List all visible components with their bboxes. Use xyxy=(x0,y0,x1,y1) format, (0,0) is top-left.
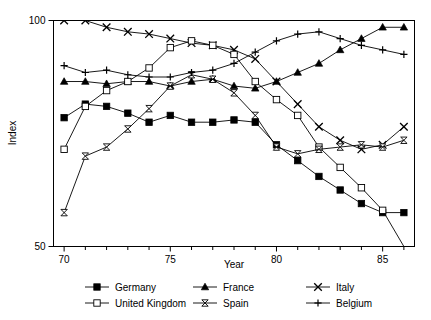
open-square-marker xyxy=(273,96,279,102)
legend-item-united-kingdom[interactable]: United Kingdom xyxy=(85,298,186,309)
plus-marker xyxy=(209,67,216,74)
legend-item-germany[interactable]: Germany xyxy=(85,282,156,293)
x-marker xyxy=(294,100,302,108)
filled-square-marker xyxy=(231,117,237,123)
open-square-marker xyxy=(252,78,258,84)
open-square-marker xyxy=(94,300,100,306)
x-tick-label: 70 xyxy=(59,254,71,265)
filled-triangle-marker xyxy=(82,78,89,85)
open-square-marker xyxy=(167,44,173,50)
filled-triangle-marker xyxy=(336,46,343,53)
open-square-marker xyxy=(146,65,152,71)
plus-marker xyxy=(294,30,301,37)
y-tick-label: 100 xyxy=(29,15,46,26)
filled-square-marker xyxy=(316,173,322,179)
filled-square-marker xyxy=(358,200,364,206)
filled-square-marker xyxy=(125,110,131,116)
filled-triangle-marker xyxy=(379,23,386,30)
filled-square-marker xyxy=(252,119,258,125)
legend-label: Spain xyxy=(223,298,249,309)
bowtie-marker xyxy=(125,126,131,132)
plus-marker xyxy=(167,73,174,80)
filled-square-marker xyxy=(210,119,216,125)
series-germany xyxy=(61,101,407,216)
x-marker xyxy=(251,55,259,63)
plus-marker xyxy=(103,67,110,74)
filled-triangle-marker xyxy=(201,283,208,290)
y-tick-label: 50 xyxy=(34,241,46,252)
plus-marker xyxy=(252,49,259,56)
bowtie-marker xyxy=(82,153,88,159)
plus-marker xyxy=(337,35,344,42)
plus-marker xyxy=(230,60,237,67)
y-axis-ticks xyxy=(49,21,54,247)
filled-square-marker xyxy=(94,284,100,290)
plus-marker xyxy=(273,37,280,44)
bowtie-marker xyxy=(103,144,109,150)
bowtie-marker xyxy=(61,209,67,215)
filled-triangle-marker xyxy=(294,69,301,76)
open-square-marker xyxy=(295,112,301,118)
x-marker xyxy=(336,136,344,144)
filled-triangle-marker xyxy=(315,60,322,67)
x-tick-label: 75 xyxy=(165,254,177,265)
open-square-marker xyxy=(358,185,364,191)
legend-item-spain[interactable]: Spain xyxy=(193,298,249,309)
legend-label: United Kingdom xyxy=(115,298,186,309)
legend-label: France xyxy=(223,282,255,293)
open-square-marker xyxy=(337,164,343,170)
legend-item-belgium[interactable]: Belgium xyxy=(306,298,372,309)
filled-square-marker xyxy=(401,209,407,215)
y-axis-tick-labels: 50100 xyxy=(29,15,46,252)
bowtie-marker xyxy=(231,90,237,96)
bowtie-marker xyxy=(252,112,258,118)
bowtie-marker xyxy=(401,137,407,143)
bowtie-marker xyxy=(295,151,301,157)
open-square-marker xyxy=(61,146,67,152)
x-marker xyxy=(315,123,323,131)
line-chart: 70758085 50100 Year Index GermanyFranceI… xyxy=(0,0,431,320)
plus-marker xyxy=(358,42,365,49)
plus-marker xyxy=(124,71,131,78)
bowtie-marker xyxy=(146,105,152,111)
plus-marker xyxy=(61,62,68,69)
filled-square-marker xyxy=(103,103,109,109)
x-marker xyxy=(400,123,408,131)
open-square-marker xyxy=(379,207,385,213)
open-square-marker xyxy=(103,87,109,93)
plus-marker xyxy=(314,299,321,306)
legend-label: Germany xyxy=(115,282,156,293)
x-axis-ticks xyxy=(64,247,404,252)
x-marker xyxy=(103,23,111,31)
filled-square-marker xyxy=(188,119,194,125)
plus-marker xyxy=(82,69,89,76)
x-tick-label: 85 xyxy=(377,254,389,265)
legend-label: Italy xyxy=(336,282,354,293)
legend-item-italy[interactable]: Italy xyxy=(306,282,354,293)
x-marker xyxy=(166,35,174,43)
y-axis-title: Index xyxy=(7,121,18,145)
filled-square-marker xyxy=(295,157,301,163)
x-axis-title: Year xyxy=(224,259,245,270)
chart-screenshot: 70758085 50100 Year Index GermanyFranceI… xyxy=(0,0,431,320)
plus-marker xyxy=(400,51,407,58)
filled-square-marker xyxy=(146,119,152,125)
open-square-marker xyxy=(188,38,194,44)
x-tick-label: 80 xyxy=(271,254,283,265)
chart-legend: GermanyFranceItalyUnited KingdomSpainBel… xyxy=(85,282,372,309)
legend-label: Belgium xyxy=(336,298,372,309)
plus-marker xyxy=(145,73,152,80)
open-square-marker xyxy=(210,42,216,48)
open-square-marker xyxy=(231,51,237,57)
open-square-marker xyxy=(82,103,88,109)
filled-square-marker xyxy=(61,114,67,120)
open-square-marker xyxy=(125,78,131,84)
series-spain xyxy=(61,72,407,216)
filled-triangle-marker xyxy=(358,35,365,42)
filled-square-marker xyxy=(167,112,173,118)
legend-item-france[interactable]: France xyxy=(193,282,255,293)
filled-triangle-marker xyxy=(60,78,67,85)
chart-canvas: 70758085 50100 Year Index GermanyFranceI… xyxy=(0,0,431,320)
filled-square-marker xyxy=(337,187,343,193)
filled-triangle-marker xyxy=(400,23,407,30)
